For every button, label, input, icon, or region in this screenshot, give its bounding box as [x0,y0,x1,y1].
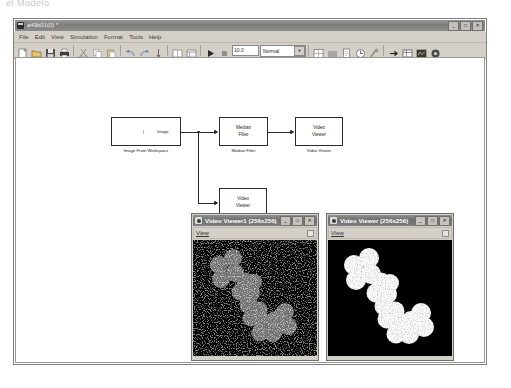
video-viewer-icon [330,217,337,224]
maximize-button[interactable]: □ [292,216,303,226]
window-title: a49b01(0) * [27,20,448,31]
help-icon[interactable] [429,44,442,57]
minimize-button[interactable]: _ [280,216,291,226]
menu-help[interactable]: Help [146,32,164,42]
maximize-button[interactable]: □ [427,216,438,226]
video-viewer-title: Video Viewer (256x256) [340,215,415,226]
redo-icon[interactable] [138,44,151,57]
print-icon[interactable] [58,44,71,57]
stop-simulation-icon[interactable] [218,44,231,57]
model-properties-icon[interactable] [340,44,353,57]
block-video-viewer[interactable]: Video Viewer [295,117,343,146]
menu-tools[interactable]: Tools [126,32,146,42]
video-viewer1-controls: _ □ ✕ [280,216,315,226]
menu-simulation[interactable]: Simulation [67,32,101,42]
video-viewer-title-bar[interactable]: Video Viewer (256x256) _ □ ✕ [328,215,452,226]
block-inner-label [112,118,180,145]
maximize-button[interactable]: □ [460,21,471,31]
block-caption-video-viewer: Video Viewer [295,148,343,153]
block-parameters-icon[interactable] [401,44,414,57]
close-button[interactable]: ✕ [472,21,483,31]
video-viewer1-image [193,240,317,356]
block-median-filter[interactable]: Median Filter [219,117,268,146]
video-viewer-icon [195,217,202,224]
set-path-icon[interactable] [326,44,339,57]
toolbar-separator [382,45,386,56]
window-controls: _ □ ✕ [448,21,483,31]
minimize-button[interactable]: _ [415,216,426,226]
minimize-button[interactable]: _ [448,21,459,31]
menu-bar: File Edit View Simulation Format Tools H… [14,32,486,43]
port-tick: | [143,129,144,134]
page-caption: el Modelo [6,0,206,12]
video-viewer1-title-bar[interactable]: Video Viewer1 (256x256) _ □ ✕ [193,215,317,226]
menu-view[interactable]: View [196,230,209,236]
toolbar-separator [307,45,311,56]
save-model-icon[interactable] [44,44,57,57]
block-caption-median-filter: Median Filter [219,148,268,153]
start-simulation-icon[interactable] [204,44,217,57]
new-model-icon[interactable] [16,44,29,57]
block-inner-label: Median Filter [220,118,267,145]
menu-view[interactable]: View [48,32,67,42]
copy-icon[interactable] [91,44,104,57]
block-inner-label: Video Viewer [220,189,266,216]
toolbar-separator [166,45,170,56]
window-title-bar[interactable]: a49b01(0) * _ □ ✕ [15,20,485,31]
block-inner-label: Video Viewer [296,118,342,145]
library-browser-icon[interactable] [171,44,184,57]
simulation-mode-select[interactable]: Normal ▼ [260,45,306,57]
profiler-icon[interactable] [354,44,367,57]
menu-file[interactable]: File [16,32,32,42]
video-viewer-window[interactable]: Video Viewer (256x256) _ □ ✕ View [326,213,454,361]
model-explorer-icon[interactable] [185,44,198,57]
open-model-icon[interactable] [30,44,43,57]
go-to-parent-icon[interactable] [387,44,400,57]
block-image-from-workspace[interactable] [111,117,181,146]
toolbar-separator [72,45,76,56]
scope-icon[interactable] [415,44,428,57]
menu-view[interactable]: View [331,230,344,236]
median-input-port [215,130,218,134]
paste-icon[interactable] [105,44,118,57]
video-viewer1-menu-bar: View [193,227,317,239]
video-viewer1-title: Video Viewer1 (256x256) [205,215,280,226]
menu-format[interactable]: Format [101,32,126,42]
wire-branch-vertical [198,132,199,203]
simulation-mode-value: Normal [263,46,279,56]
video-viewer-image [328,240,452,356]
undo-icon[interactable] [124,44,137,57]
close-button[interactable]: ✕ [439,216,450,226]
block-caption-image-from-workspace: Image From Workspace [111,148,181,153]
video-viewer-controls: _ □ ✕ [415,216,450,226]
chevron-down-icon[interactable]: ▼ [294,46,305,56]
menu-edit[interactable]: Edit [32,32,48,42]
build-icon[interactable] [368,44,381,57]
close-button[interactable]: ✕ [304,216,315,226]
video-viewer1-window[interactable]: Video Viewer1 (256x256) _ □ ✕ View [191,213,319,361]
simulink-icon [17,22,24,29]
video-viewer-menu-bar: View [328,227,452,239]
viewer-input-port [291,130,294,134]
resize-grip-icon[interactable] [442,230,449,237]
stop-time-input[interactable]: 10.0 [232,45,259,56]
toolbar-separator [119,45,123,56]
update-diagram-icon[interactable] [152,44,165,57]
port-label-image: Image [157,129,169,134]
toolbar-separator [199,45,203,56]
cut-icon[interactable] [77,44,90,57]
viewer1-input-port [215,201,218,205]
debug-icon[interactable] [312,44,325,57]
resize-grip-icon[interactable] [307,230,314,237]
